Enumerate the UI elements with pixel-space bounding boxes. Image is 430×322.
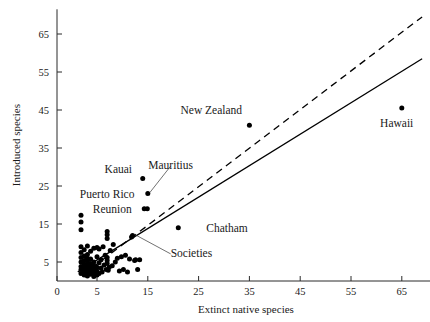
- annotation-label-chatham: Chatham: [206, 222, 248, 234]
- data-point: [176, 225, 181, 230]
- data-point: [108, 248, 113, 253]
- data-point: [99, 257, 104, 262]
- annotation-label-kauai: Kauai: [105, 163, 132, 175]
- annotation-label-new-zealand: New Zealand: [180, 104, 242, 116]
- data-point: [82, 247, 87, 252]
- y-tick-label: 45: [39, 105, 50, 116]
- y-axis-title: Introduced species: [10, 104, 22, 186]
- x-tick-label: 0: [54, 286, 59, 297]
- annotation-label-hawaii: Hawaii: [380, 117, 413, 129]
- x-tick-label: 55: [346, 286, 357, 297]
- data-point: [105, 255, 110, 260]
- x-tick-label: 25: [193, 286, 204, 297]
- annotation-label-puerto-rico: Puerto Rico: [80, 188, 135, 200]
- x-tick-label: 15: [143, 286, 154, 297]
- x-tick-label: 65: [397, 286, 408, 297]
- data-point: [79, 213, 84, 218]
- annotation-label-societies: Societies: [171, 247, 213, 259]
- y-tick-label: 15: [39, 219, 50, 230]
- x-tick-label: 35: [244, 286, 255, 297]
- data-point: [140, 176, 145, 181]
- data-point: [125, 269, 130, 274]
- y-tick-label: 65: [39, 29, 50, 40]
- x-axis-title: Extinct native species: [198, 303, 294, 315]
- data-point: [130, 233, 135, 238]
- annotation-label-reunion: Reunion: [93, 203, 132, 215]
- data-point: [95, 254, 100, 259]
- data-point: [135, 267, 140, 272]
- data-point: [145, 206, 150, 211]
- data-point: [247, 123, 252, 128]
- y-tick-label: 35: [39, 143, 50, 154]
- y-tick-label: 25: [39, 181, 50, 192]
- data-point: [111, 242, 116, 247]
- leader-line-societies: [135, 234, 171, 253]
- data-point: [123, 253, 128, 258]
- y-tick-label: 5: [44, 257, 49, 268]
- data-point: [85, 244, 90, 249]
- x-tick-label: 45: [295, 286, 306, 297]
- y-tick-label: 55: [39, 67, 50, 78]
- x-tick-label: 5: [94, 286, 99, 297]
- data-point: [145, 191, 150, 196]
- data-point: [101, 244, 106, 249]
- data-point: [79, 227, 84, 232]
- data-point: [127, 256, 132, 261]
- scatter-plot-figure: 051525354555655152535455565Extinct nativ…: [0, 0, 430, 322]
- data-point: [105, 229, 110, 234]
- plot-canvas: 051525354555655152535455565Extinct nativ…: [0, 0, 430, 322]
- data-point: [91, 260, 96, 265]
- data-point: [399, 106, 404, 111]
- data-point: [79, 220, 84, 225]
- data-point: [137, 257, 142, 262]
- annotation-label-mauritius: Mauritius: [148, 159, 193, 171]
